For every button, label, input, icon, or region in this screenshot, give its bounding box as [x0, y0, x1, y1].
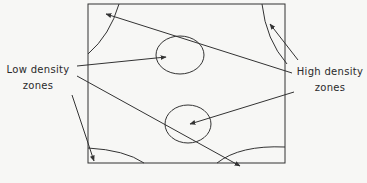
- arrow-high-to-top-right-arc: [270, 24, 298, 60]
- low-density-circle-upper: [156, 36, 204, 74]
- high-density-arc-top-left: [88, 4, 119, 54]
- high-density-label-line1: High density: [294, 64, 366, 80]
- low-density-label-line2: zones: [2, 78, 74, 94]
- arrow-low-to-bottom-right-arc: [77, 76, 240, 166]
- low-density-label-line1: Low density: [2, 62, 74, 78]
- arrow-low-to-upper-circle: [77, 57, 166, 66]
- arrow-high-to-lower-circle: [190, 92, 294, 124]
- high-density-label-line2: zones: [294, 80, 366, 96]
- high-density-arc-top-right: [262, 4, 287, 64]
- high-density-arc-bottom-right: [217, 147, 285, 163]
- high-density-label: High density zones: [294, 64, 366, 96]
- low-density-label: Low density zones: [2, 62, 74, 94]
- high-density-arc-bottom-left: [88, 148, 144, 163]
- arrow-high-to-bottom-left-arc: [72, 95, 94, 161]
- sample-box: [88, 4, 285, 163]
- arrow-high-to-top-left-arc: [106, 14, 292, 73]
